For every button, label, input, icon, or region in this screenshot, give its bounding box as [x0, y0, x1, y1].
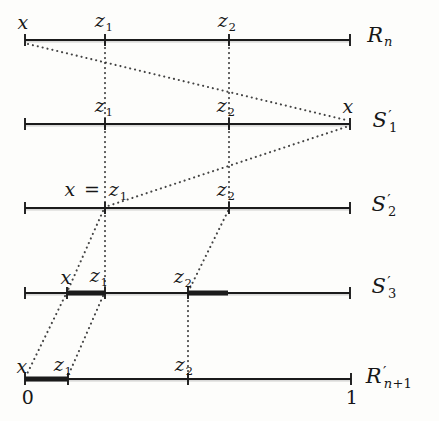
- row-label-S2: S′2: [371, 193, 396, 218]
- point-label-z2-Rn1: z2: [175, 355, 194, 378]
- point-label-z1-S3: z1: [90, 266, 109, 289]
- interval-mapping-diagram: xz1z2Rnz1z2xS′1x = z1z2S′2xz1z2S′3xz1z20…: [0, 0, 439, 421]
- dotted-connector-z1-S3-to-Rn1: [68, 296, 103, 376]
- point-label-1-Rn1: 1: [346, 388, 358, 407]
- point-label-x-Rn: x: [17, 13, 28, 32]
- row-label-Rn1: R′n+1: [366, 365, 412, 390]
- point-label-x-Rn1: x: [16, 357, 27, 376]
- row-label-S3: S′3: [371, 275, 396, 300]
- point-label-z2-S3: z2: [174, 267, 193, 290]
- point-label-z1-S1: z1: [95, 96, 114, 119]
- point-label-z1-Rn: z1: [95, 11, 114, 34]
- point-label-0-Rn1: 0: [22, 388, 34, 407]
- point-label-z1-Rn1: z1: [54, 355, 73, 378]
- point-label-z2-S1: z2: [217, 96, 236, 119]
- point-label-z2-S2: z2: [217, 180, 236, 203]
- point-label-xz1-S2: x = z1: [65, 180, 128, 203]
- point-label-z2-Rn: z2: [218, 11, 237, 34]
- point-label-x-S3: x: [60, 268, 71, 287]
- point-label-x-S1: x: [342, 97, 353, 116]
- row-label-S1: S′1: [372, 109, 397, 134]
- dotted-connector-z2-S2-to-S3: [189, 211, 228, 290]
- row-label-Rn: Rn: [367, 25, 392, 48]
- dotted-connector-x-Rn-to-S1: [28, 44, 346, 120]
